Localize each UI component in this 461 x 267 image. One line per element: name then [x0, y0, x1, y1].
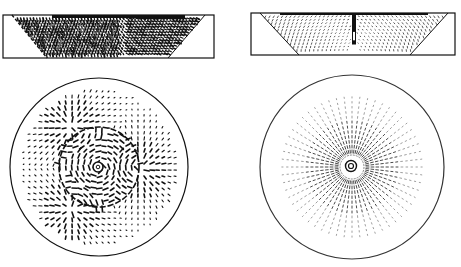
center-eye: [93, 162, 103, 172]
right-top-view-panel: [260, 75, 444, 259]
left-side-view-panel: [3, 15, 214, 58]
center-eye: [346, 161, 357, 172]
left-top-view-panel: [10, 78, 188, 256]
taper-wall-left: [260, 13, 299, 55]
velocity-vectors: [17, 18, 199, 57]
figure-canvas: [0, 0, 461, 267]
right-side-view-panel: [251, 13, 455, 55]
